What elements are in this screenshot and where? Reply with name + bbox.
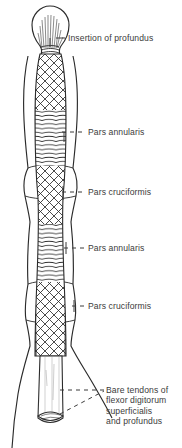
bare-tendon-stump <box>36 356 66 428</box>
finger-tendon-sheath-illustration <box>0 0 182 448</box>
label-pars-annularis-distal: Pars annularis <box>88 127 144 137</box>
label-bare-tendons-line-4: and profundus <box>106 416 182 426</box>
pars-annularis-band-distal <box>30 110 74 166</box>
label-insertion-of-profundus: Insertion of profundus <box>68 33 153 43</box>
leader-bare-tendons-angled <box>60 391 104 414</box>
label-pars-annularis-proximal: Pars annularis <box>88 243 144 253</box>
label-bare-tendons-line-1: Bare tendons of <box>106 385 182 395</box>
anatomical-figure: Insertion of profundus Pars annularis Pa… <box>0 0 182 448</box>
fibrous-flexor-sheath <box>30 52 74 362</box>
label-pars-cruciformis-distal: Pars cruciformis <box>88 187 151 197</box>
label-bare-tendons-line-3: superficialis <box>106 406 182 416</box>
label-bare-tendons-line-2: flexor digitorum <box>106 395 182 405</box>
pars-annularis-band-proximal <box>30 224 74 282</box>
label-bare-tendons: Bare tendons of flexor digitorum superfi… <box>106 385 182 427</box>
label-pars-cruciformis-proximal: Pars cruciformis <box>88 301 151 311</box>
